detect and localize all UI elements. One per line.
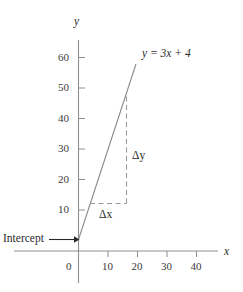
graph-canvas [0, 0, 243, 292]
y-tick-label-60: 60 [58, 52, 69, 63]
intercept-label: Intercept [3, 233, 44, 245]
x-tick-label-40: 40 [191, 261, 202, 272]
x-tick-label-10: 10 [102, 261, 113, 272]
y-tick-label-10: 10 [58, 204, 69, 215]
x-tick-label-0: 0 [66, 261, 72, 272]
delta-x-label: Δx [99, 209, 112, 221]
x-tick-label-30: 30 [161, 261, 172, 272]
y-tick-label-30: 30 [58, 143, 69, 154]
intercept-arrow [49, 236, 80, 242]
y-tick-label-40: 40 [58, 113, 69, 124]
y-axis-label: y [74, 16, 79, 28]
y-tick-label-50: 50 [58, 82, 69, 93]
y-axis-ticks [79, 58, 86, 211]
x-axis-label: x [224, 246, 229, 258]
graph-figure: y x 10 20 30 40 50 60 0 10 20 30 40 y = … [0, 0, 243, 292]
equation-label: y = 3x + 4 [142, 48, 191, 60]
delta-y-label: Δy [132, 150, 145, 162]
y-tick-label-20: 20 [58, 174, 69, 185]
x-axis-ticks [79, 251, 197, 257]
x-tick-label-20: 20 [132, 261, 143, 272]
